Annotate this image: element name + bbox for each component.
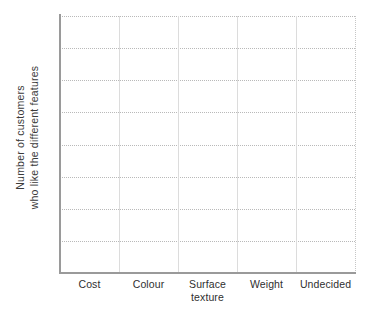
- horizontal-gridlines: [60, 16, 355, 273]
- gridline-horizontal: [60, 241, 355, 242]
- x-axis-tick-label-undecided: Undecided: [296, 277, 355, 313]
- gridline-horizontal: [60, 177, 355, 178]
- gridline-horizontal: [60, 145, 355, 146]
- gridline-horizontal: [60, 209, 355, 210]
- gridline-vertical: [296, 16, 297, 273]
- x-axis-tick-label-surface-texture: Surfacetexture: [178, 277, 237, 313]
- y-axis-title-line-1: Number of customers: [15, 65, 29, 208]
- x-axis-tick-label-cost: Cost: [60, 277, 119, 313]
- x-axis-tick-labels: CostColourSurfacetextureWeightUndecided: [60, 277, 355, 313]
- x-axis-tick-label-line: Weight: [237, 278, 296, 291]
- gridline-vertical: [237, 16, 238, 273]
- y-axis-title-line-2: who like the different features: [28, 65, 42, 208]
- gridline-horizontal: [60, 16, 355, 17]
- plot-area: [60, 16, 355, 273]
- chart-figure: Number of customers who like the differe…: [0, 0, 368, 314]
- x-axis-line: [59, 272, 356, 274]
- x-axis-tick-label-line: texture: [178, 291, 237, 304]
- gridline-horizontal: [60, 80, 355, 81]
- x-axis-tick-label-line: Cost: [60, 278, 119, 291]
- vertical-gridlines: [60, 16, 355, 273]
- y-axis-title: Number of customers who like the differe…: [0, 0, 56, 274]
- gridline-vertical: [119, 16, 120, 273]
- gridline-horizontal: [60, 48, 355, 49]
- x-axis-tick-label-weight: Weight: [237, 277, 296, 313]
- x-axis-tick-label-line: Surface: [178, 278, 237, 291]
- x-axis-tick-label-colour: Colour: [119, 277, 178, 313]
- gridline-vertical: [178, 16, 179, 273]
- x-axis-tick-label-line: Undecided: [296, 278, 355, 291]
- y-axis-line: [59, 14, 61, 274]
- x-axis-tick-label-line: Colour: [119, 278, 178, 291]
- gridline-horizontal: [60, 112, 355, 113]
- y-axis-title-text: Number of customers who like the differe…: [15, 65, 42, 208]
- gridline-vertical: [355, 16, 356, 273]
